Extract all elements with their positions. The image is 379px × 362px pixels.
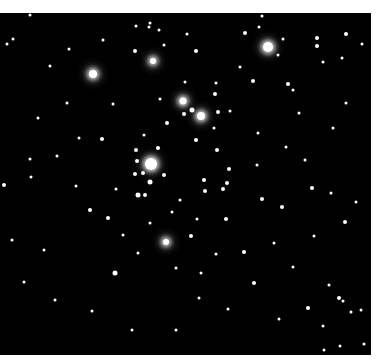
star <box>156 146 160 150</box>
star <box>162 173 166 177</box>
star <box>37 117 40 120</box>
star <box>227 167 231 171</box>
star <box>306 306 310 310</box>
star <box>66 102 69 105</box>
star <box>143 193 147 197</box>
star <box>227 308 230 311</box>
star <box>12 38 15 41</box>
star <box>261 15 264 18</box>
star <box>286 82 290 86</box>
star <box>136 193 141 198</box>
star <box>278 318 281 321</box>
star <box>196 218 199 221</box>
star <box>113 271 118 276</box>
star <box>115 188 118 191</box>
star <box>322 325 325 328</box>
star <box>242 250 246 254</box>
star <box>292 89 295 92</box>
star <box>43 249 46 252</box>
star <box>180 98 187 105</box>
star <box>149 22 152 25</box>
star <box>179 199 182 202</box>
star <box>260 197 264 201</box>
star <box>163 239 169 245</box>
star <box>350 311 353 314</box>
star <box>11 239 14 242</box>
star <box>91 310 94 313</box>
star <box>339 345 342 348</box>
star <box>133 172 137 176</box>
star <box>102 39 105 42</box>
star <box>148 180 153 185</box>
star <box>252 281 256 285</box>
star <box>145 158 157 170</box>
star <box>221 187 225 191</box>
star <box>330 192 333 195</box>
star <box>203 189 207 193</box>
star <box>112 103 115 106</box>
star <box>75 185 78 188</box>
star <box>194 49 198 53</box>
star <box>315 36 319 40</box>
star <box>106 216 110 220</box>
star <box>184 81 187 84</box>
star <box>135 25 138 28</box>
star <box>243 31 247 35</box>
star <box>165 121 169 125</box>
star <box>148 26 151 29</box>
star <box>134 148 138 152</box>
star <box>143 134 146 137</box>
star <box>213 92 217 96</box>
star <box>304 159 307 162</box>
star <box>194 138 198 142</box>
star <box>202 178 206 182</box>
star <box>360 309 363 312</box>
star <box>135 159 139 163</box>
star <box>332 127 335 130</box>
star-field <box>0 13 371 355</box>
star <box>258 26 261 29</box>
star <box>251 79 255 83</box>
star <box>323 349 326 352</box>
star <box>137 252 140 255</box>
star <box>190 108 195 113</box>
star <box>68 48 71 51</box>
star <box>285 146 288 149</box>
star <box>2 183 6 187</box>
star <box>310 186 314 190</box>
star <box>189 234 193 238</box>
star <box>175 267 178 270</box>
star <box>29 158 32 161</box>
star <box>328 284 331 287</box>
star <box>229 110 232 113</box>
star <box>224 217 228 221</box>
star <box>315 44 319 48</box>
star <box>239 66 242 69</box>
star <box>345 102 348 105</box>
star <box>215 148 219 152</box>
star <box>256 164 259 167</box>
star <box>298 112 301 115</box>
star <box>30 176 33 179</box>
star <box>175 329 178 332</box>
star <box>29 14 32 17</box>
star <box>186 33 189 36</box>
star <box>200 272 203 275</box>
star <box>131 329 134 332</box>
star <box>322 61 325 64</box>
star <box>89 70 97 78</box>
star <box>49 65 52 68</box>
star <box>313 235 316 238</box>
star <box>163 44 166 47</box>
star <box>159 98 162 101</box>
star <box>273 242 276 245</box>
star <box>282 38 285 41</box>
star <box>150 58 156 64</box>
star <box>215 82 218 85</box>
star <box>257 132 260 135</box>
star <box>342 300 345 303</box>
star <box>225 181 229 185</box>
star <box>171 211 174 214</box>
star <box>337 296 341 300</box>
star <box>100 137 104 141</box>
